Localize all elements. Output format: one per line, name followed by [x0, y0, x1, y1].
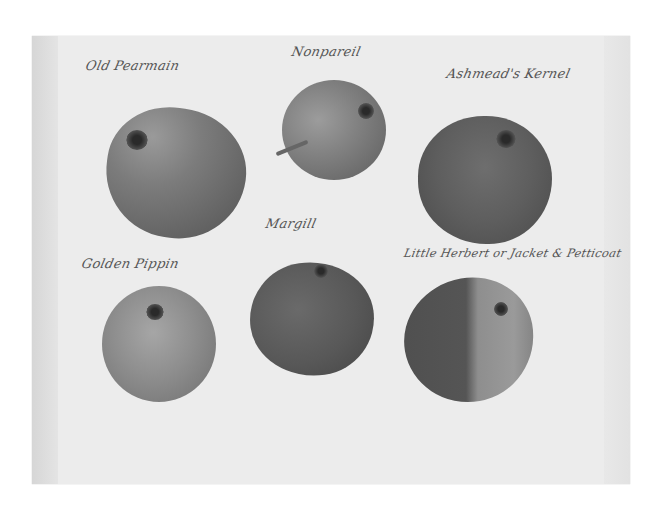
label-margill: Margill — [264, 216, 317, 231]
apple-eye — [126, 130, 148, 150]
label-old-pearmain: Old Pearmain — [84, 58, 181, 73]
apple-eye — [358, 103, 374, 119]
apple-eye — [494, 302, 508, 316]
paper-edge-right — [604, 36, 630, 484]
apple-eye — [496, 130, 516, 148]
label-nonpareil: Nonpareil — [290, 44, 362, 59]
paper-edge-left — [32, 36, 58, 484]
label-golden-pippin: Golden Pippin — [80, 256, 180, 271]
apple-eye — [146, 304, 164, 320]
apple-ashmeads-kernel — [418, 116, 552, 244]
apple-nonpareil — [282, 80, 386, 180]
label-ashmeads-kernel: Ashmead's Kernel — [445, 66, 571, 81]
apple-golden-pippin — [102, 286, 216, 402]
label-little-herbert: Little Herbert or Jacket & Petticoat — [403, 246, 623, 260]
apple-eye — [314, 264, 328, 278]
